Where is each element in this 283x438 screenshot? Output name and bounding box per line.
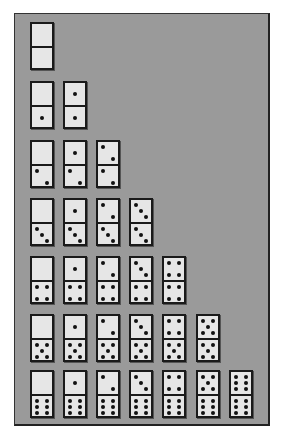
pip-icon (111, 239, 115, 243)
domino-half-bottom (131, 222, 151, 246)
pip-icon (35, 411, 39, 415)
pip-icon (101, 411, 105, 415)
pip-icon (139, 349, 143, 353)
domino-tile-1-6 (63, 370, 87, 418)
pip-icon (68, 297, 72, 301)
pip-icon (45, 181, 49, 185)
pip-icon (73, 151, 77, 155)
pip-icon (172, 349, 176, 353)
pip-icon (45, 285, 49, 289)
domino-half-top (164, 258, 184, 280)
domino-half-top (131, 258, 151, 280)
domino-tile-4-4 (162, 256, 186, 304)
domino-tile-1-4 (63, 256, 87, 304)
domino-half-top (164, 372, 184, 394)
pip-icon (111, 181, 115, 185)
pip-icon (144, 297, 148, 301)
pip-icon (177, 285, 181, 289)
pip-icon (101, 203, 105, 207)
pip-icon (139, 233, 143, 237)
pip-icon (73, 233, 77, 237)
domino-half-top (198, 316, 218, 338)
pip-icon (73, 209, 77, 213)
pip-icon (201, 331, 205, 335)
pip-icon (111, 273, 115, 277)
domino-half-bottom (32, 164, 52, 188)
domino-half-bottom (32, 222, 52, 246)
pip-icon (167, 405, 171, 409)
domino-half-bottom (65, 338, 85, 362)
pip-icon (144, 405, 148, 409)
domino-half-bottom (65, 280, 85, 304)
pip-icon (111, 297, 115, 301)
pip-icon (101, 375, 105, 379)
domino-tile-3-3 (129, 198, 153, 246)
pip-icon (40, 233, 44, 237)
pip-icon (167, 343, 171, 347)
pip-icon (45, 355, 49, 359)
pip-icon (78, 411, 82, 415)
pip-icon (177, 411, 181, 415)
pip-icon (35, 169, 39, 173)
pip-icon (134, 285, 138, 289)
pip-icon (134, 261, 138, 265)
domino-half-bottom (98, 164, 118, 188)
domino-half-top (32, 316, 52, 338)
pip-icon (201, 387, 205, 391)
pip-icon (201, 405, 205, 409)
pip-icon (111, 355, 115, 359)
pip-icon (111, 399, 115, 403)
pip-icon (167, 261, 171, 265)
pip-icon (134, 203, 138, 207)
pip-icon (101, 227, 105, 231)
pip-icon (78, 297, 82, 301)
pip-icon (244, 411, 248, 415)
pip-icon (234, 375, 238, 379)
pip-icon (144, 331, 148, 335)
pip-icon (177, 399, 181, 403)
pip-icon (211, 331, 215, 335)
pip-icon (111, 215, 115, 219)
pip-icon (78, 239, 82, 243)
pip-icon (101, 355, 105, 359)
pip-icon (45, 343, 49, 347)
pip-icon (134, 343, 138, 347)
domino-half-bottom (98, 394, 118, 418)
pip-icon (68, 285, 72, 289)
domino-tile-2-5 (96, 314, 120, 362)
pip-icon (35, 399, 39, 403)
pip-icon (73, 325, 77, 329)
domino-tile-5-6 (196, 370, 220, 418)
domino-half-top (98, 372, 118, 394)
pip-icon (234, 387, 238, 391)
domino-tile-1-1 (63, 81, 87, 129)
domino-half-bottom (65, 164, 85, 188)
domino-half-top (65, 258, 85, 280)
pip-icon (144, 239, 148, 243)
pip-icon (101, 285, 105, 289)
pip-icon (144, 273, 148, 277)
pip-icon (177, 273, 181, 277)
pip-icon (234, 399, 238, 403)
domino-half-top (98, 142, 118, 164)
pip-icon (45, 239, 49, 243)
pip-icon (244, 399, 248, 403)
pip-icon (167, 319, 171, 323)
domino-tile-5-5 (196, 314, 220, 362)
pip-icon (177, 331, 181, 335)
domino-half-bottom (198, 394, 218, 418)
pip-icon (101, 405, 105, 409)
domino-half-bottom (98, 222, 118, 246)
pip-icon (40, 349, 44, 353)
pip-icon (68, 355, 72, 359)
domino-half-bottom (164, 280, 184, 304)
pip-icon (134, 319, 138, 323)
pip-icon (73, 267, 77, 271)
pip-icon (206, 381, 210, 385)
pip-icon (68, 405, 72, 409)
domino-half-top (65, 200, 85, 222)
pip-icon (177, 387, 181, 391)
domino-tile-0-5 (30, 314, 54, 362)
domino-half-bottom (98, 280, 118, 304)
domino-half-bottom (65, 105, 85, 129)
